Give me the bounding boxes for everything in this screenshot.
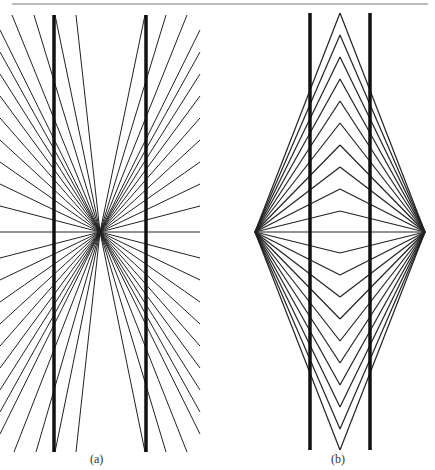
chevron-line <box>255 232 340 429</box>
panel-a-hering-illusion <box>0 15 200 452</box>
ray-line <box>100 162 200 232</box>
ray-line <box>0 206 100 232</box>
ray-line <box>0 232 100 412</box>
ray-line <box>100 232 200 368</box>
ray-line <box>0 232 100 258</box>
chevron-line <box>340 189 425 232</box>
ray-line <box>0 96 100 232</box>
caption-a: (a) <box>90 452 103 467</box>
ray-line <box>0 30 100 232</box>
ray-line <box>0 232 100 302</box>
chevron-line <box>340 79 425 232</box>
chevron-line <box>255 189 340 232</box>
chevron-line <box>255 232 340 385</box>
chevron-line <box>255 57 340 232</box>
ray-line <box>100 232 200 412</box>
chevron-line <box>340 232 425 429</box>
chevron-line <box>340 145 425 232</box>
chevron-line <box>340 101 425 232</box>
ray-line <box>100 15 145 232</box>
chevron-line <box>255 232 340 275</box>
illusion-diagram <box>0 0 435 470</box>
ray-line <box>55 232 100 452</box>
chevron-line <box>255 35 340 232</box>
ray-line <box>0 232 100 346</box>
ray-line <box>0 118 100 232</box>
ray-line <box>100 232 200 346</box>
ray-line <box>34 15 100 232</box>
chevron-line <box>340 35 425 232</box>
ray-line <box>100 232 200 258</box>
ray-line <box>100 15 166 232</box>
ray-line <box>14 232 100 452</box>
chevron-line <box>255 232 340 363</box>
ray-line <box>0 232 100 368</box>
ray-line <box>100 232 145 452</box>
chevron-line <box>340 232 425 319</box>
chevron-line <box>340 232 425 385</box>
chevron-line <box>340 232 425 363</box>
ray-line <box>100 232 166 452</box>
chevron-line <box>340 232 425 275</box>
illusion-figure: (a) (b) <box>0 0 435 470</box>
ray-line <box>100 206 200 232</box>
panel-b-wundt-illusion <box>255 13 425 450</box>
chevron-line <box>255 145 340 232</box>
chevron-line <box>340 57 425 232</box>
ray-line <box>12 15 100 232</box>
ray-line <box>100 52 200 232</box>
ray-line <box>0 162 100 232</box>
ray-line <box>100 232 187 452</box>
ray-line <box>100 30 200 232</box>
chevron-line <box>255 232 340 319</box>
ray-line <box>0 52 100 232</box>
chevron-line <box>340 232 425 407</box>
chevron-line <box>255 79 340 232</box>
ray-line <box>100 118 200 232</box>
ray-line <box>55 15 100 232</box>
ray-line <box>100 232 200 302</box>
ray-line <box>100 96 200 232</box>
ray-line <box>100 15 187 232</box>
ray-line <box>100 232 200 434</box>
chevron-line <box>255 101 340 232</box>
chevron-line <box>255 232 340 407</box>
caption-b: (b) <box>331 452 345 467</box>
